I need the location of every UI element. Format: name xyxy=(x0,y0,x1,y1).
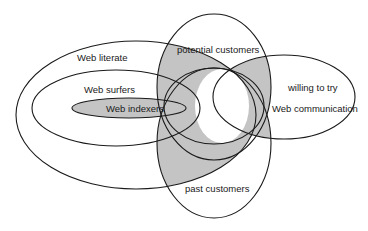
label-willing-to-try: willing to try xyxy=(287,82,338,93)
label-web-communication: Web communication xyxy=(272,103,358,114)
label-web-literate: Web literate xyxy=(77,52,128,63)
venn-diagram: Web literate Web surfers Web indexers po… xyxy=(0,0,368,231)
label-web-surfers: Web surfers xyxy=(84,84,135,95)
label-web-indexers: Web indexers xyxy=(106,103,164,114)
shaded-overlap-regions xyxy=(16,41,355,189)
label-past-customers: past customers xyxy=(185,183,250,194)
label-potential-customers: potential customers xyxy=(177,44,260,55)
